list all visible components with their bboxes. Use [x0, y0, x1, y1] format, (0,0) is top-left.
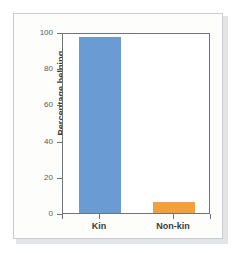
chart-figure: Percentage helping 020406080100 KinNon-k… [0, 0, 238, 253]
x-tick-label: Non-kin [133, 221, 213, 231]
x-tick-mark [173, 214, 174, 219]
x-tick-label: Kin [59, 221, 139, 231]
y-tick-label: 100 [40, 27, 53, 38]
plot-area [62, 33, 210, 214]
x-axis-edge-tick [62, 214, 63, 219]
bar-non-kin [153, 202, 195, 213]
y-tick-label: 20 [44, 172, 53, 183]
plot-wrapper: Percentage helping 020406080100 KinNon-k… [0, 0, 238, 253]
y-tick-label: 40 [44, 136, 53, 147]
bar-kin [79, 37, 121, 213]
x-axis-edge-tick [210, 214, 211, 219]
y-axis-title-holder: Percentage helping [24, 60, 38, 170]
y-tick-label: 80 [44, 63, 53, 74]
y-tick-label: 60 [44, 99, 53, 110]
y-tick-label: 0 [49, 208, 53, 219]
x-tick-mark [99, 214, 100, 219]
